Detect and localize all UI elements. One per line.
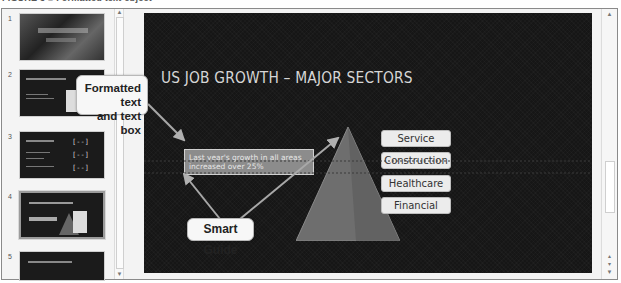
- thumbnail-number: 3: [8, 133, 12, 140]
- callout-line-1: Formatted text: [77, 81, 141, 109]
- thumbnail-title-bar: [26, 140, 54, 142]
- thumbnail-text-line: [26, 98, 54, 99]
- thumbnail-title-bar: [29, 202, 73, 204]
- thumbnail-text-line: [26, 94, 48, 95]
- scroll-up-icon[interactable]: ▲: [606, 11, 613, 18]
- next-slide-icon[interactable]: ▾: [606, 261, 613, 268]
- slide-thumbnail-5[interactable]: [19, 251, 105, 281]
- scrollbar-thumb[interactable]: [116, 17, 124, 269]
- previous-slide-icon[interactable]: ▴: [606, 253, 613, 260]
- slide-thumbnail-1[interactable]: [19, 13, 105, 61]
- scroll-down-icon[interactable]: ▼: [606, 269, 613, 276]
- thumbnail-subtitle-bar: [46, 38, 76, 42]
- slide-thumbnail-pane: 1 2 3 [--][--][--] 4 5: [2, 9, 114, 279]
- thumbnail-bracket-icons: [--][--][--]: [72, 136, 89, 175]
- callout-line-2: and text box: [77, 109, 141, 137]
- slide-thumbnail-4[interactable]: [19, 191, 105, 239]
- slide-thumbnail-3[interactable]: [--][--][--]: [19, 131, 105, 179]
- figure-caption: FIGURE 3 ■ Formatted text object: [2, 0, 152, 3]
- thumbnail-number: 5: [8, 253, 12, 260]
- thumbnail-text-line: [26, 166, 54, 167]
- scrollbar-thumb[interactable]: [605, 161, 615, 213]
- callout-smart-guide: Smart Guide: [187, 218, 254, 241]
- thumbnail-number: 1: [8, 15, 12, 22]
- thumbnail-number: 2: [8, 71, 12, 78]
- thumbnail-text-box: [29, 217, 57, 221]
- thumbnail-title-bar: [38, 28, 88, 33]
- thumbnail-tiers: [73, 211, 87, 233]
- callout-formatted-text: Formatted text and text box: [76, 75, 148, 115]
- slide-scrollbar[interactable]: ▲ ▴ ▾ ▼: [601, 9, 617, 279]
- thumbnail-number: 4: [8, 193, 12, 200]
- thumbnail-text-line: [26, 158, 44, 159]
- powerpoint-window: 1 2 3 [--][--][--] 4 5: [1, 8, 618, 280]
- thumbnail-title-bar: [26, 78, 66, 80]
- thumbnail-text-line: [26, 152, 50, 153]
- scroll-up-icon[interactable]: ▲: [116, 9, 123, 16]
- thumbnail-scrollbar[interactable]: ▲ ▼: [114, 9, 124, 279]
- scroll-down-icon[interactable]: ▼: [116, 271, 123, 278]
- thumbnail-title-bar: [28, 261, 72, 263]
